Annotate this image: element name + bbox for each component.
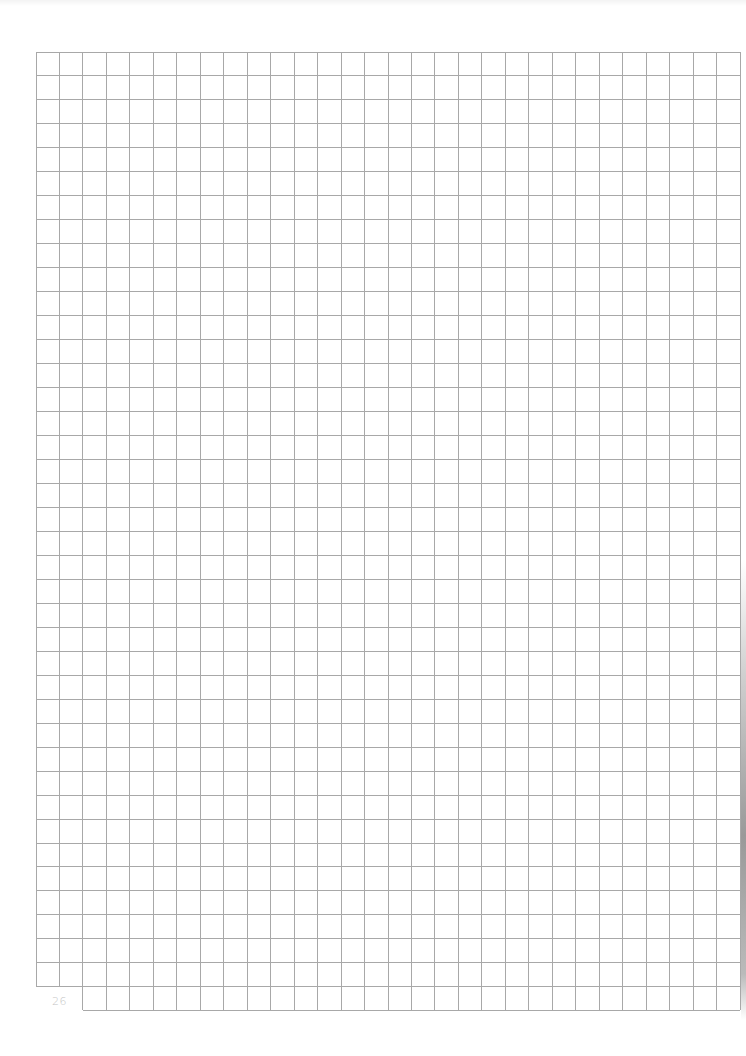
graph-paper-page: 26	[0, 0, 746, 1056]
binding-shadow	[741, 560, 746, 1020]
grid	[0, 0, 746, 1056]
page-number: 26	[52, 995, 67, 1008]
